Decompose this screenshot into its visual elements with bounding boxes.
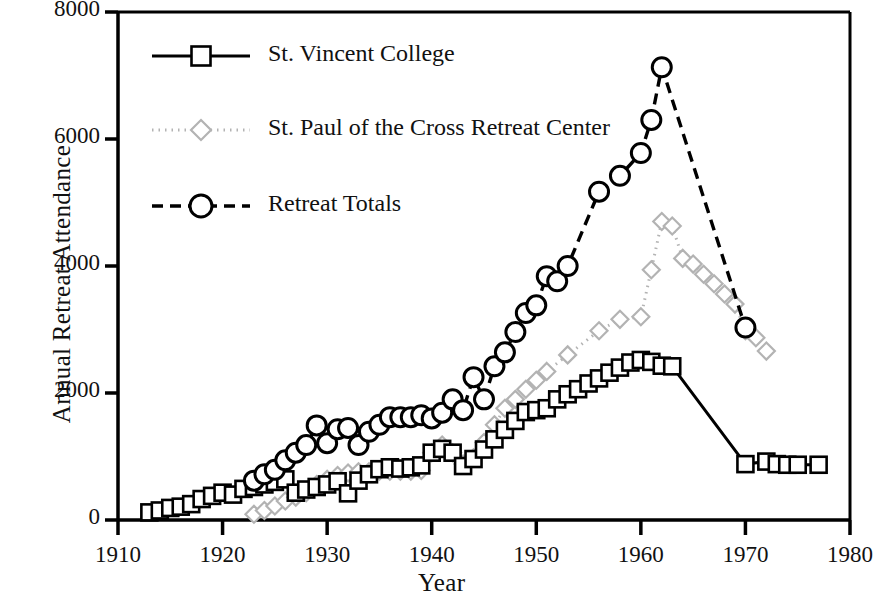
data-point-marker	[495, 343, 514, 362]
data-point-marker	[643, 261, 660, 278]
x-axis-title: Year	[418, 569, 465, 597]
data-point-marker	[527, 296, 546, 315]
data-point-marker	[454, 401, 473, 420]
data-point-marker	[610, 166, 629, 185]
data-point-marker	[464, 368, 483, 387]
y-tick-label: 8000	[0, 0, 100, 22]
data-point-marker	[736, 318, 755, 337]
y-tick-label: 0	[0, 504, 100, 530]
data-point-marker	[664, 358, 680, 374]
x-tick-label: 1950	[486, 542, 586, 568]
x-tick-label: 1920	[173, 542, 273, 568]
data-point-marker	[558, 257, 577, 276]
legend-marker-retreat-totals	[190, 195, 212, 217]
data-point-marker	[339, 418, 358, 437]
data-point-marker	[758, 343, 775, 360]
x-tick-label: 1940	[382, 542, 482, 568]
data-point-marker	[475, 390, 494, 409]
x-tick-label: 1910	[68, 542, 168, 568]
data-point-marker	[811, 457, 827, 473]
data-point-marker	[737, 456, 753, 472]
data-point-marker	[506, 323, 525, 342]
legend-marker-st-vincent-college	[192, 47, 211, 66]
y-tick-label: 6000	[0, 123, 100, 149]
data-point-marker	[632, 308, 649, 325]
x-tick-label: 1970	[695, 542, 795, 568]
legend-glyphs	[152, 47, 250, 218]
x-tick-label: 1960	[591, 542, 691, 568]
data-point-marker	[790, 457, 806, 473]
data-point-marker	[631, 143, 650, 162]
legend-label-st-vincent-college: St. Vincent College	[268, 40, 455, 67]
legend-label-st-paul-of-the-cross: St. Paul of the Cross Retreat Center	[268, 114, 610, 141]
legend-label-retreat-totals: Retreat Totals	[268, 190, 401, 217]
data-point-marker	[652, 58, 671, 77]
data-point-marker	[611, 311, 628, 328]
y-tick-label: 4000	[0, 250, 100, 276]
y-tick-label: 2000	[0, 377, 100, 403]
data-point-marker	[590, 182, 609, 201]
legend-marker-st-paul-of-the-cross	[191, 120, 211, 140]
data-point-marker	[297, 436, 316, 455]
x-tick-label: 1930	[277, 542, 377, 568]
x-tick-label: 1980	[800, 542, 877, 568]
data-point-marker	[307, 416, 326, 435]
data-point-marker	[642, 110, 661, 129]
